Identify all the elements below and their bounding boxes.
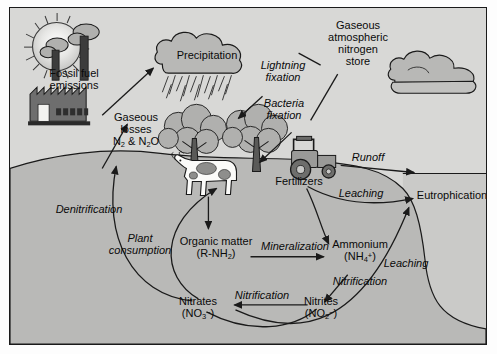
label-bacteria-fixation: Bacteria fixation — [251, 98, 317, 122]
label-fossil-fuel-emissions: Fossil fuel emissions — [31, 68, 117, 92]
label-gaseous-losses-formula: N2 & N2O — [103, 136, 169, 149]
label-nitrification-ammonium: Nitrification — [320, 276, 400, 288]
label-runoff: Runoff — [342, 152, 394, 164]
label-nitrification-nitrites: Nitrification — [222, 290, 302, 302]
nitrogen-cycle-figure: Fossil fuel emissions Precipitation Gase… — [0, 0, 497, 354]
label-gaseous-losses: Gaseous losses N2 & N2O — [103, 112, 169, 148]
label-denitrification: Denitrification — [42, 204, 136, 216]
diagram-frame: Fossil fuel emissions Precipitation Gase… — [9, 7, 487, 345]
label-eutrophication: Eutrophication — [410, 190, 487, 202]
label-nitrites-formula: (NO2−) — [291, 308, 351, 321]
label-ammonium-formula: (NH4+) — [323, 251, 397, 264]
label-organic-matter: Organic matter (R-NH2) — [169, 236, 263, 261]
label-atmospheric-nitrogen-store: Gaseous atmospheric nitrogen store — [316, 20, 400, 68]
label-precipitation: Precipitation — [167, 50, 247, 62]
label-lightning-fixation: Lightning fixation — [249, 60, 317, 84]
label-nitrates: Nitrates (NO3−) — [167, 296, 229, 321]
label-fertilizers: Fertilizers — [264, 176, 334, 188]
label-organic-matter-formula: (R-NH2) — [169, 248, 263, 261]
label-leaching-upper: Leaching — [330, 188, 392, 200]
label-nitrates-formula: (NO3−) — [167, 308, 229, 321]
label-ammonium: Ammonium (NH4+) — [323, 239, 397, 264]
